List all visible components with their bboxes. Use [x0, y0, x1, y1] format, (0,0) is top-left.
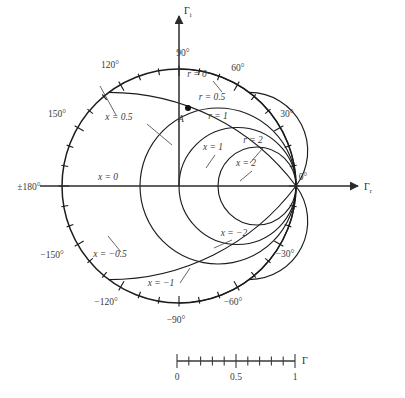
scale-tick-label-0: 0: [175, 372, 180, 382]
scale-tick-label-5: 0.5: [230, 372, 242, 382]
angle-label-0: 0°: [299, 172, 308, 182]
leader-x-0_5-up: [100, 86, 116, 115]
smith-chart-figure: 90°60°30°0°−30°−60°−90°−120°−150°±180°15…: [0, 0, 405, 398]
angle-label-neg150: −150°: [40, 250, 64, 260]
reactance-label-x1: x = 1: [202, 142, 223, 152]
resistance-label-r1: r = 1: [208, 111, 228, 121]
angle-label-neg90: −90°: [167, 315, 186, 325]
reactance-label-x0_5: x = 0.5: [104, 112, 133, 122]
angle-tick-100: [158, 68, 159, 75]
scale-bar-axis-label: Γ: [302, 355, 308, 366]
scale-tick-label-10: 1: [293, 372, 298, 382]
imag-axis-label-subscript: i: [190, 11, 192, 18]
angle-label-neg120: −120°: [94, 297, 118, 307]
scale-bar-axis-label-symbol: Γ: [302, 355, 308, 366]
resistance-label-r2: r = 2: [243, 135, 263, 145]
leader-x-neg1: [180, 268, 190, 283]
angle-label-180: ±180°: [17, 182, 40, 192]
leader-x-2: [240, 171, 252, 181]
angle-tick-260: [158, 297, 159, 304]
reactance-label-x0: x = 0: [97, 172, 118, 182]
angle-tick-170: [61, 165, 68, 166]
marked-point-a: [185, 105, 191, 111]
reactance-label-xneg2: x = −2: [220, 228, 248, 238]
reactance-label-xneg0_5: x = −0.5: [92, 249, 127, 259]
reactance-arc-xneg2: [249, 186, 308, 280]
angle-label-90: 90°: [176, 48, 190, 58]
reactance-label-xneg1: x = −1: [147, 278, 175, 288]
angle-tick-10: [290, 165, 297, 166]
angle-label-150: 150°: [48, 109, 66, 119]
angle-tick-190: [61, 206, 68, 207]
real-axis-label: Γr: [364, 181, 373, 194]
marked-point-label: A: [177, 114, 184, 124]
marked-point-layer: [185, 105, 191, 111]
smith-chart-svg: 90°60°30°0°−30°−60°−90°−120°−150°±180°15…: [0, 0, 405, 398]
angle-label-120: 120°: [101, 60, 119, 70]
real-axis-label-subscript: r: [370, 187, 373, 194]
imag-axis-label: Γi: [184, 5, 192, 18]
leader-x-1: [206, 155, 215, 168]
resistance-label-r0: r = 0: [187, 69, 207, 79]
scale-bar-layer: [177, 354, 295, 368]
label-layer: 90°60°30°0°−30°−60°−90°−120°−150°±180°15…: [17, 5, 372, 382]
angle-tick-280: [199, 297, 200, 304]
angle-label-30: 30°: [280, 109, 294, 119]
leader-r-0: [213, 81, 222, 92]
angle-label-60: 60°: [231, 63, 245, 73]
reactance-label-x2: x = 2: [235, 158, 256, 168]
angle-label-neg30: −30°: [276, 249, 295, 259]
resistance-label-r0_5: r = 0.5: [199, 92, 226, 102]
angle-tick-350: [290, 206, 297, 207]
angle-label-neg60: −60°: [224, 297, 243, 307]
leader-x-0_5-down: [147, 124, 172, 145]
